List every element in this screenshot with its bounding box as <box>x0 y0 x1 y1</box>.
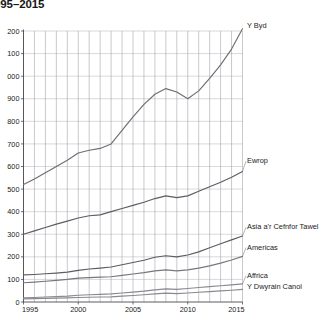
x-tick-label: 2005 <box>125 305 141 314</box>
series-label-affrica: Affrica <box>247 271 269 280</box>
line-chart-plot: 0100200300400500600700800900000100200 19… <box>0 0 319 320</box>
y-tick-label: 000 <box>7 72 19 81</box>
series-label-ewrop: Ewrop <box>247 156 268 165</box>
x-tick-label: 2015 <box>228 305 244 314</box>
y-tick-label: 800 <box>7 117 19 126</box>
y-tick-label: 500 <box>7 185 19 194</box>
y-axis-tick-labels: 0100200300400500600700800900000100200 <box>7 27 23 307</box>
y-tick-label: 0 <box>15 298 19 307</box>
series-inline-labels: Y BydEwropAsia a'r Cefnfor TawelAmericas… <box>243 21 319 291</box>
y-tick-label: 700 <box>7 140 19 149</box>
x-tick-label: 1995 <box>22 305 38 314</box>
y-tick-label: 900 <box>7 94 19 103</box>
y-tick-label: 600 <box>7 162 19 171</box>
series-leader-americas <box>243 248 247 257</box>
y-tick-label: 100 <box>7 49 19 58</box>
series-leader-ewrop <box>243 161 247 171</box>
y-tick-label: 400 <box>7 207 19 216</box>
y-tick-label: 200 <box>7 27 19 36</box>
series-label-asia-a-r-cefnfor-tawel: Asia a'r Cefnfor Tawel <box>247 222 319 231</box>
chart-container: 995–2015 0100200300400500600700800900000… <box>0 0 319 320</box>
x-tick-label: 2000 <box>70 305 86 314</box>
series-label-y-byd: Y Byd <box>247 21 267 30</box>
y-tick-label: 200 <box>7 252 19 261</box>
y-tick-label: 300 <box>7 230 19 239</box>
x-axis-tick-labels: 19952000200520102015 <box>22 302 245 314</box>
x-tick-label: 2010 <box>180 305 196 314</box>
series-leader-asia-a-r-cefnfor-tawel <box>243 227 247 236</box>
series-label-y-dwyrain-canol: Y Dwyrain Canol <box>247 282 302 291</box>
y-tick-label: 100 <box>7 275 19 284</box>
series-leader-affrica <box>243 276 247 284</box>
series-label-americas: Americas <box>247 243 278 252</box>
